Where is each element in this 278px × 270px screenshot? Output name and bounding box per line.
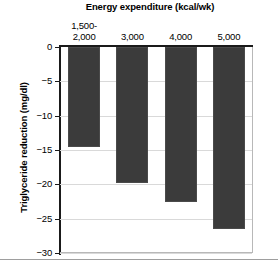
category-label-line: 5,000 <box>199 31 259 42</box>
y-tick-label: −20 <box>12 179 52 189</box>
bottom-divider <box>0 259 278 260</box>
y-tick-mark <box>55 253 59 254</box>
y-tick-mark <box>55 150 59 151</box>
y-tick-label: −15 <box>12 145 52 155</box>
bar-chart-figure: Energy expenditure (kcal/wk) Triglycerid… <box>0 0 278 270</box>
y-tick-mark <box>55 219 59 220</box>
y-tick-label: −25 <box>12 214 52 224</box>
bar <box>116 47 148 183</box>
bar <box>68 47 100 147</box>
y-tick-label: 0 <box>12 42 52 52</box>
chart-title: Energy expenditure (kcal/wk) <box>30 1 270 13</box>
category-label-line: 1,500- <box>54 20 114 31</box>
category-label: 5,000 <box>199 31 259 42</box>
y-tick-mark <box>55 116 59 117</box>
y-tick-label: −10 <box>12 111 52 121</box>
gridline <box>60 253 252 254</box>
y-tick-mark <box>55 47 59 48</box>
y-tick-mark <box>55 81 59 82</box>
plot-area <box>60 47 253 253</box>
y-tick-label: −30 <box>12 248 52 258</box>
y-tick-mark <box>55 184 59 185</box>
bar <box>165 47 197 202</box>
y-tick-label: −5 <box>12 76 52 86</box>
bar <box>213 47 245 229</box>
